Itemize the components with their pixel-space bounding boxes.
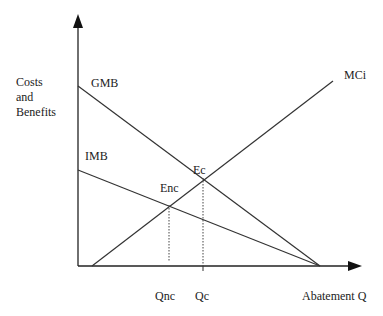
qc-tick-label: Qc xyxy=(195,289,209,304)
x-axis-label: Abatement Q xyxy=(302,289,366,304)
qnc-tick-label: Qnc xyxy=(155,289,175,304)
imb-label: IMB xyxy=(85,149,108,164)
y-axis-arrow-icon xyxy=(73,14,83,28)
y-axis-label-line-1: Costs xyxy=(16,75,56,90)
mci-curve xyxy=(92,81,333,266)
y-axis-label-line-2: and xyxy=(16,90,56,105)
enc-label: Enc xyxy=(160,181,179,196)
y-axis-label-line-3: Benefits xyxy=(16,105,56,120)
gmb-label: GMB xyxy=(91,76,118,91)
diagram-canvas xyxy=(0,0,383,316)
x-axis-arrow-icon xyxy=(348,261,362,271)
ec-label: Ec xyxy=(193,163,206,178)
mci-label: MCi xyxy=(344,68,366,83)
y-axis-label: Costs and Benefits xyxy=(16,75,56,120)
